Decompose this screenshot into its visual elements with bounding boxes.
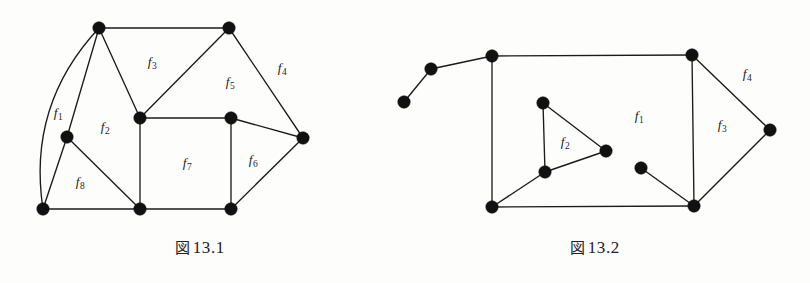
figure-caption-13-1: 図13.1 [0, 236, 400, 258]
curved-edge-v-top-left-to-v-bottom-left [40, 28, 99, 209]
edge-v-tail-mid-to-v-top-left [431, 56, 492, 69]
edge-v-top-right-to-v-bottom-right [692, 55, 694, 206]
edge-v-top-right-to-v-center [140, 28, 229, 118]
face-label-subscript: 6 [253, 159, 258, 169]
vertex-v-inner-isolated [635, 162, 647, 174]
face-label-f2: f2 [101, 119, 110, 135]
face-label-f6: f6 [249, 152, 258, 168]
face-label-subscript: 3 [722, 124, 727, 134]
vertex-v-tail-end [398, 96, 410, 108]
face-label-f8: f8 [76, 174, 85, 190]
figure-13-1: f1f2f3f4f5f6f7f8 図13.1 [0, 0, 400, 283]
vertex-v-bottom-right [688, 200, 700, 212]
edge-v-bottom-left-to-v-tri-bottom [492, 172, 545, 207]
vertex-v-far-right [764, 124, 776, 136]
vertex-v-left-mid [61, 131, 73, 143]
face-label-f5: f5 [226, 74, 235, 90]
vertex-v-tri-right [600, 145, 612, 157]
edge-v-top-left-to-v-left-mid [67, 28, 99, 137]
vertex-v-bottom-mid [134, 203, 146, 215]
face-label-subscript: 5 [230, 81, 235, 91]
edge-v-tri-top-to-v-tri-right [543, 103, 606, 151]
face-label-f3: f3 [148, 54, 157, 70]
vertex-v-far-right [297, 132, 309, 144]
edge-v-left-mid-to-v-bottom-mid [67, 137, 140, 209]
face-label-f2: f2 [561, 134, 570, 150]
vertex-v-tail-mid [425, 63, 437, 75]
caption-kanji-13-2: 図 [570, 239, 588, 257]
vertex-v-right-mid [225, 112, 237, 124]
face-label-f4: f4 [278, 60, 287, 76]
edge-v-top-right-to-v-far-right [229, 28, 303, 138]
edge-v-tri-right-to-v-tri-bottom [545, 151, 606, 172]
face-label-subscript: 1 [639, 115, 644, 125]
edge-v-inner-isolated-to-v-bottom-right [641, 168, 694, 206]
vertex-v-top-right [686, 49, 698, 61]
face-label-subscript: 3 [152, 61, 157, 71]
face-label-subscript: 4 [747, 73, 752, 83]
vertex-v-tri-top [537, 97, 549, 109]
edge-v-left-mid-to-v-bottom-left [43, 137, 67, 209]
graph-drawing-13-2 [380, 0, 810, 232]
face-label-subscript: 1 [58, 112, 63, 122]
caption-number-13-1: 13.1 [193, 238, 225, 257]
face-label-subscript: 8 [80, 181, 85, 191]
vertex-v-top-right [223, 22, 235, 34]
face-label-subscript: 7 [187, 162, 192, 172]
vertex-v-center [134, 112, 146, 124]
face-label-subscript: 2 [565, 141, 570, 151]
face-label-f3: f3 [718, 117, 727, 133]
caption-number-13-2: 13.2 [588, 238, 620, 257]
face-label-subscript: 2 [105, 126, 110, 136]
face-label-f1: f1 [54, 105, 63, 121]
face-label-f1: f1 [635, 108, 644, 124]
face-label-f4: f4 [743, 66, 752, 82]
edge-v-far-right-to-v-bottom-right [694, 130, 770, 206]
caption-kanji-13-1: 図 [175, 239, 193, 257]
figure-13-2: f1f2f3f4 図13.2 [380, 0, 810, 283]
vertex-v-top-left [486, 50, 498, 62]
edge-v-bottom-left-to-v-bottom-right [492, 206, 694, 207]
vertex-v-bottom-left [486, 201, 498, 213]
edge-v-top-left-to-v-top-right [492, 55, 692, 56]
edge-v-far-right-to-v-bottom-right [231, 138, 303, 209]
face-label-f7: f7 [183, 155, 192, 171]
edge-v-top-left-to-v-center [99, 28, 140, 118]
vertex-v-tri-bottom [539, 166, 551, 178]
vertex-v-top-left [93, 22, 105, 34]
vertex-v-bottom-left [37, 203, 49, 215]
edge-v-tri-bottom-to-v-tri-top [543, 103, 545, 172]
page-canvas: f1f2f3f4f5f6f7f8 図13.1 f1f2f3f4 図13.2 [0, 0, 810, 283]
face-label-subscript: 4 [282, 67, 287, 77]
figure-caption-13-2: 図13.2 [380, 236, 810, 258]
edge-v-top-right-to-v-far-right [692, 55, 770, 130]
vertex-v-bottom-right [225, 203, 237, 215]
